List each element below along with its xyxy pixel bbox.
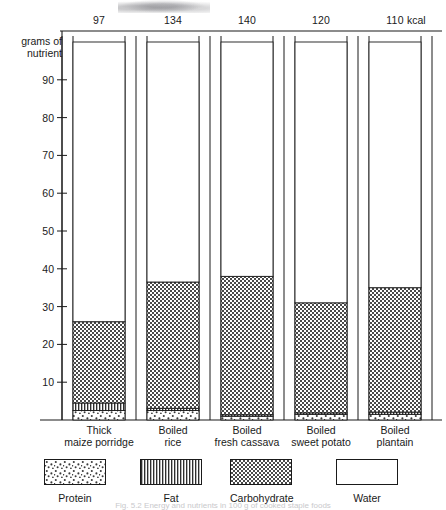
figure-caption: Fig. 5.2 Energy and nutrients in 100 g o… [0,501,446,510]
bar-group [369,42,421,420]
energy-value: 97 [74,14,124,26]
category-label-line: plantain [350,436,440,448]
bar-segment-water [295,42,347,303]
stacked-bar-chart: kcal 97134140120110 grams of nutrient 10… [0,0,446,510]
energy-value: 134 [148,14,198,26]
energy-value: 110 [370,14,420,26]
bar-segment-protein [221,416,273,420]
energy-value: 120 [296,14,346,26]
energy-value: 140 [222,14,272,26]
chart-legend: ProteinFatCarbohydrateWater [44,459,404,503]
bar-group [147,42,199,420]
y-tick-label: 70 [24,150,54,160]
bar-segment-carbohydrate [221,276,273,414]
bar-group [221,42,273,420]
legend-item-water: Water [336,459,398,504]
bar-segment-water [73,42,125,322]
y-tick-label: 30 [24,302,54,312]
bar-group [295,42,347,420]
y-axis-caption-line1: grams of [4,36,62,48]
category-label-line: Boiled [350,424,440,436]
y-tick-label: 20 [24,339,54,349]
bar-segment-water [147,42,199,282]
bar-segment-carbohydrate [369,288,421,412]
y-tick-label: 90 [24,75,54,85]
legend-item-carbohydrate: Carbohydrate [230,459,292,504]
legend-swatch-water [336,459,398,485]
legend-swatch-fat [140,459,202,485]
bar-segment-protein [147,411,199,420]
bar-segment-protein [369,414,421,420]
bar-segment-carbohydrate [147,282,199,408]
bar-segment-protein [73,411,125,420]
y-tick-label: 40 [24,264,54,274]
bar-segment-water [221,42,273,276]
legend-item-fat: Fat [140,459,202,504]
category-label: Boiledplantain [350,424,440,448]
energy-axis-top: kcal 97134140120110 [0,14,446,28]
legend-item-protein: Protein [44,459,106,504]
y-tick-label: 10 [24,377,54,387]
y-tick-label: 60 [24,188,54,198]
legend-swatch-protein [44,459,106,485]
y-tick-label: 80 [24,113,54,123]
bar-segment-water [369,42,421,288]
bar-segment-fat [73,403,125,411]
y-axis-caption-line2: nutrient [4,48,62,60]
y-tick-label: 50 [24,226,54,236]
bar-segment-protein [295,414,347,420]
bar-segment-carbohydrate [73,322,125,403]
y-axis-caption: grams of nutrient [4,36,62,59]
bar-segment-carbohydrate [295,303,347,413]
bars-layer [73,42,421,420]
bar-group [73,42,125,420]
legend-swatch-carbohydrate [230,459,292,485]
